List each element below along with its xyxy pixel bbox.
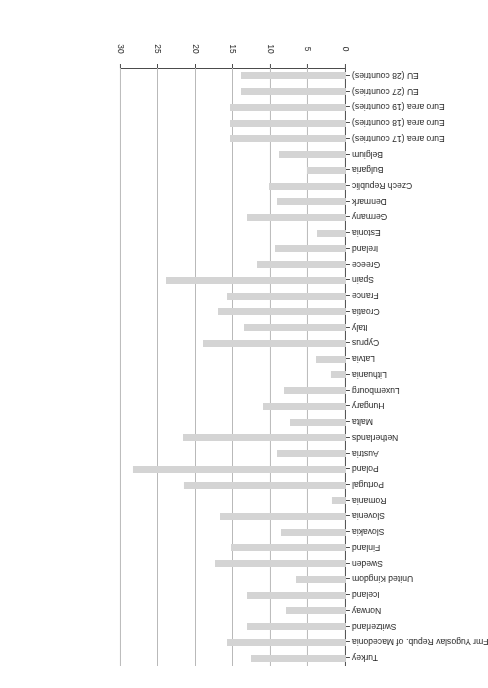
- bar: [247, 592, 346, 599]
- category-tick: [346, 106, 350, 107]
- category-label: Italy: [352, 323, 368, 333]
- bar: [264, 403, 347, 410]
- category-tick: [346, 201, 350, 202]
- category-tick: [346, 248, 350, 249]
- axis-tick-label: 30: [116, 44, 126, 53]
- category-label: Cyprus: [352, 338, 379, 348]
- bar: [227, 293, 346, 300]
- category-tick: [346, 264, 350, 265]
- bar: [220, 513, 346, 520]
- category-label: Latvia: [352, 354, 375, 364]
- category-tick: [346, 547, 350, 548]
- category-tick: [346, 122, 350, 123]
- category-label: Norway: [352, 606, 381, 616]
- category-tick: [346, 405, 350, 406]
- category-label: Switzerland: [352, 622, 396, 632]
- bar: [183, 434, 346, 441]
- category-tick: [346, 75, 350, 76]
- category-label: Estonia: [352, 228, 381, 238]
- category-tick: [346, 626, 350, 627]
- category-tick: [346, 437, 350, 438]
- bar: [166, 277, 346, 284]
- axis-tick-label: 0: [341, 47, 351, 52]
- category-tick: [346, 295, 350, 296]
- category-tick: [346, 374, 350, 375]
- category-label: EU (27 countries): [352, 87, 419, 97]
- gridline: [233, 68, 234, 666]
- category-label: Poland: [352, 464, 379, 474]
- axis-tick: [195, 64, 196, 68]
- bar: [231, 544, 346, 551]
- category-tick: [346, 390, 350, 391]
- category-tick: [346, 279, 350, 280]
- category-tick: [346, 138, 350, 139]
- category-label: Belgium: [352, 150, 383, 160]
- category-label: Slovenia: [352, 512, 385, 522]
- category-tick: [346, 185, 350, 186]
- category-tick: [346, 154, 350, 155]
- category-tick: [346, 358, 350, 359]
- bar: [317, 230, 346, 237]
- axis-tick-label: 20: [191, 44, 201, 53]
- axis-tick: [308, 64, 309, 68]
- category-tick: [346, 217, 350, 218]
- bar: [270, 183, 347, 190]
- bar: [286, 607, 346, 614]
- category-axis-line: [121, 68, 346, 69]
- category-tick: [346, 91, 350, 92]
- category-tick: [346, 342, 350, 343]
- category-label: Euro area (17 countries): [352, 134, 445, 144]
- category-label: Sweden: [352, 559, 383, 569]
- category-label: Austria: [352, 449, 379, 459]
- bar: [307, 167, 346, 174]
- bar: [277, 198, 346, 205]
- bar: [316, 356, 346, 363]
- bar: [279, 151, 346, 158]
- plot-area: 051015202530EU (28 countries)EU (27 coun…: [121, 68, 346, 666]
- bar: [231, 104, 347, 111]
- gridline: [195, 68, 196, 666]
- axis-tick: [270, 64, 271, 68]
- bar: [275, 245, 346, 252]
- category-label: Finland: [352, 543, 380, 553]
- gridline: [158, 68, 159, 666]
- bar: [297, 576, 347, 583]
- category-tick: [346, 232, 350, 233]
- category-label: Slovakia: [352, 527, 384, 537]
- category-label: Czech Republic: [352, 181, 412, 191]
- category-label: Turkey: [352, 653, 378, 663]
- bar: [219, 308, 347, 315]
- figure-plot-container: 051015202530EU (28 countries)EU (27 coun…: [0, 0, 392, 688]
- category-label: Portugal: [352, 480, 384, 490]
- category-tick: [346, 421, 350, 422]
- axis-tick: [120, 64, 121, 68]
- bar: [247, 623, 346, 630]
- gridline: [120, 68, 121, 666]
- category-tick: [346, 484, 350, 485]
- category-tick: [346, 594, 350, 595]
- category-label: Luxembourg: [352, 386, 400, 396]
- axis-tick: [158, 64, 159, 68]
- category-label: United Kingdom: [352, 574, 413, 584]
- bar: [204, 340, 347, 347]
- axis-tick-label: 15: [229, 44, 239, 53]
- category-label: Iceland: [352, 590, 380, 600]
- bar: [244, 324, 346, 331]
- axis-tick: [345, 64, 346, 68]
- category-label: France: [352, 291, 379, 301]
- axis-tick-label: 10: [266, 44, 276, 53]
- bar: [257, 261, 346, 268]
- bar: [284, 387, 346, 394]
- gridline: [270, 68, 271, 666]
- bar: [241, 72, 346, 79]
- category-label: Spain: [352, 275, 374, 285]
- category-label: Hungary: [352, 401, 384, 411]
- category-label: Euro area (19 countries): [352, 102, 445, 112]
- category-label: Fmr Yugoslav Repub. of Macedonia: [352, 637, 488, 647]
- category-tick: [346, 327, 350, 328]
- bar: [227, 639, 346, 646]
- bar-chart: 051015202530EU (28 countries)EU (27 coun…: [0, 0, 392, 688]
- category-label: Ireland: [352, 244, 378, 254]
- category-label: Bulgaria: [352, 165, 384, 175]
- bar: [251, 655, 346, 662]
